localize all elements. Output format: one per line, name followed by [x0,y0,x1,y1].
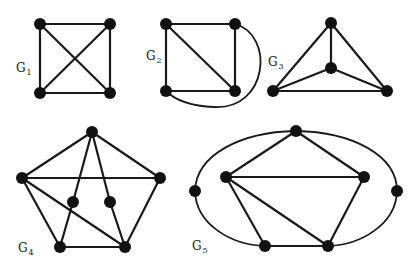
graph-vertex [34,18,46,30]
graph-vertex [34,87,46,99]
graph-vertex [86,126,98,138]
graph-edge [22,178,125,247]
graph-label: G5 [192,239,208,255]
graph-vertex [229,85,241,97]
graph-label-letter: G [268,55,278,69]
graph-vertex [104,18,116,30]
graph-vertex [391,185,403,197]
graph-g4: G4 [16,126,166,257]
graph-g5: G5 [189,125,403,255]
graph-edge [328,177,364,246]
graph-vertex [290,125,302,137]
graph-vertex [104,196,116,208]
graph-label-letter: G [16,61,26,75]
graph-curved-edge [195,191,265,246]
graph-edge [226,177,328,246]
graph-vertex [259,240,271,252]
graph-edge [110,202,125,247]
graph-vertex [154,172,166,184]
graph-vertex [104,87,116,99]
graph-label-subscript: 3 [279,62,284,71]
graph-label: G2 [146,49,162,65]
graph-vertex [160,18,172,30]
graph-vertex [325,62,337,74]
graph-label-subscript: 4 [29,248,34,257]
graph-edge [273,23,331,91]
graph-g1: G1 [16,18,116,99]
graph-label: G4 [18,241,34,257]
graph-edge [226,131,296,177]
graph-g3: G3 [267,17,393,97]
graph-figure: G1 G2 G3 G4 G5 [0,0,416,265]
graph-vertex [381,85,393,97]
graph-label-subscript: 1 [27,68,32,77]
graph-label-letter: G [192,239,202,253]
graph-vertex [229,18,241,30]
graph-edges [166,24,235,91]
graph-edge [166,24,235,91]
graph-vertex [189,185,201,197]
graph-vertex [54,241,66,253]
graph-curved-edge [328,191,397,246]
graph-vertex [67,196,79,208]
graph-edge [226,177,265,246]
graph-label: G1 [16,61,32,77]
graph-g2: G2 [146,18,261,107]
graph-vertex [220,171,232,183]
graph-vertex [16,172,28,184]
graph-label-letter: G [146,49,156,63]
graph-vertex [160,85,172,97]
graph-label-letter: G [18,241,28,255]
graph-label-subscript: 2 [157,56,162,65]
graph-edge [331,23,387,91]
graph-edge [125,178,160,247]
graph-label: G3 [268,55,284,71]
graph-vertex [322,240,334,252]
graph-edges [226,131,364,246]
graph-vertex [267,85,279,97]
graph-vertex [325,17,337,29]
graph-edges [273,23,387,91]
graph-edge [296,131,364,177]
graph-vertex [358,171,370,183]
graph-edge [22,178,60,247]
graph-edges [40,24,110,93]
graph-edges [22,132,160,247]
graph-vertex [119,241,131,253]
graph-label-subscript: 5 [203,246,208,255]
graph-arcs [195,131,397,246]
